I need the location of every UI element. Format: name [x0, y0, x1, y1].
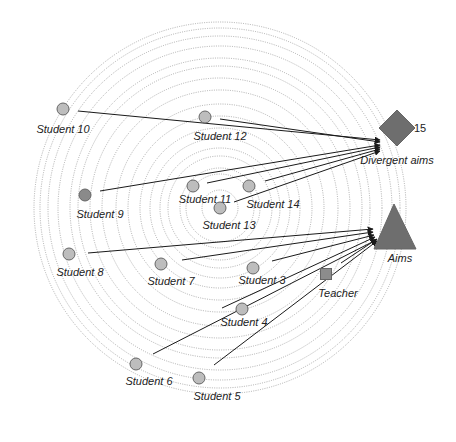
student-label: Student 8 [56, 266, 104, 278]
student-node[interactable] [199, 111, 211, 123]
student-node[interactable] [63, 248, 75, 260]
teacher: Teacher [318, 269, 359, 300]
student-node[interactable] [187, 180, 199, 192]
student-label: Student 4 [220, 316, 267, 328]
student-9: Student 9 [76, 189, 123, 220]
student-3: Student 3 [238, 262, 286, 286]
arrow-line [100, 145, 380, 191]
divergent-aims-diamond[interactable] [379, 110, 415, 146]
student-node[interactable] [79, 189, 91, 201]
student-label: Student 14 [246, 198, 299, 210]
student-label: Student 6 [125, 375, 173, 387]
teacher-label: Teacher [318, 287, 359, 299]
student-label: Student 13 [202, 219, 256, 231]
student-node[interactable] [247, 262, 259, 274]
aims-triangle[interactable] [374, 204, 416, 249]
divergent-aims-label: Divergent aims [360, 154, 434, 166]
student-aims-diagram: 15 Divergent aims Aims Teacher Student 1… [0, 0, 456, 442]
student-label: Student 3 [238, 274, 286, 286]
student-label: Student 5 [193, 390, 241, 402]
divergent-aims-count: 15 [414, 122, 426, 134]
student-label: Student 9 [76, 208, 123, 220]
student-node[interactable] [130, 358, 142, 370]
students: Student 10Student 12Student 9Student 11S… [36, 103, 299, 402]
student-label: Student 12 [193, 130, 246, 142]
aims-label: Aims [387, 252, 413, 264]
student-label: Student 10 [36, 123, 90, 135]
arrow-line [234, 151, 380, 202]
teacher-square[interactable] [321, 269, 332, 280]
student-node[interactable] [236, 303, 248, 315]
student-4: Student 4 [220, 303, 267, 328]
student-label: Student 7 [147, 275, 195, 287]
student-14: Student 14 [243, 180, 300, 210]
student-node[interactable] [155, 258, 167, 270]
student-11: Student 11 [179, 180, 231, 205]
student-node[interactable] [193, 372, 205, 384]
student-node[interactable] [214, 202, 226, 214]
student-5: Student 5 [193, 372, 241, 402]
targets: 15 Divergent aims Aims [360, 110, 434, 264]
arrow-line [341, 239, 377, 263]
student-6: Student 6 [125, 358, 173, 387]
student-node[interactable] [57, 103, 69, 115]
student-node[interactable] [243, 180, 255, 192]
arrow-line [214, 241, 377, 365]
